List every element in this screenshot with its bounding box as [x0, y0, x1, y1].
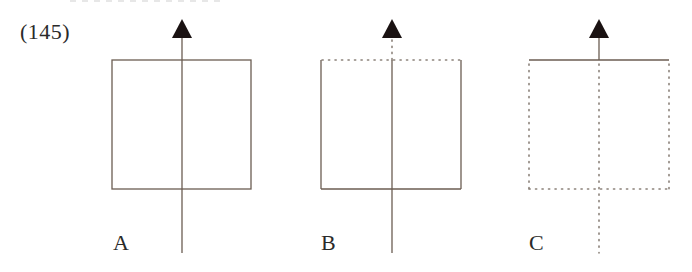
panel-a [112, 19, 251, 253]
panel-b-arrow-up-icon [382, 19, 402, 38]
panel-b [321, 19, 461, 253]
panel-a-arrow-up-icon [172, 19, 192, 38]
panel-c-arrow-up-icon [589, 19, 609, 38]
panel-c-label: C [529, 230, 544, 256]
panel-a-label: A [113, 230, 129, 256]
figure-canvas [0, 0, 692, 272]
panel-c [529, 19, 669, 253]
panel-b-label: B [321, 230, 336, 256]
